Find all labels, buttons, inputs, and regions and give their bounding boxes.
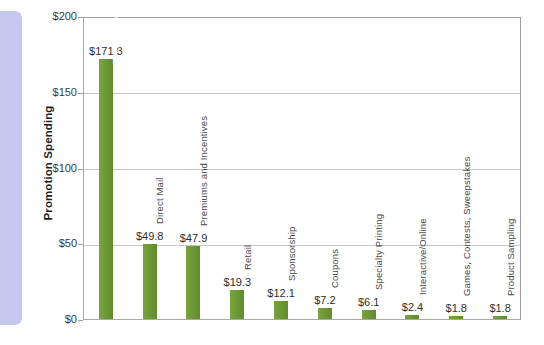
bar-category-label: Sponsorship: [286, 226, 297, 280]
y-axis-tick-mark: [78, 320, 83, 321]
bar[interactable]: [143, 244, 157, 319]
bar-category-label: Product Sampling: [505, 219, 516, 296]
bar-category-label: Direct Mail: [154, 177, 165, 224]
bar-group[interactable]: $2.4Interactive/Online: [391, 16, 435, 319]
bar-group[interactable]: $171.8Event Marketing: [84, 16, 128, 319]
bar-group[interactable]: $19.3Retail: [215, 16, 259, 319]
bar[interactable]: [362, 310, 376, 319]
bar-category-label: Event Marketing: [110, 0, 121, 65]
bar-value-label: $1.8: [470, 302, 530, 314]
bar-group[interactable]: $47.9Premiums and Incentives: [172, 16, 216, 319]
bar-category-label: Coupons: [329, 249, 340, 288]
bar-category-label: Retail: [242, 245, 253, 270]
bar[interactable]: [493, 316, 507, 319]
bar-group[interactable]: $7.2Coupons: [303, 16, 347, 319]
bar[interactable]: [230, 290, 244, 319]
bar[interactable]: [405, 315, 419, 319]
bar[interactable]: [186, 246, 200, 319]
bar-chart: Promotion Spending $0$50$100$150$200 $17…: [0, 0, 544, 345]
bar-group[interactable]: $1.8Games, Contests, Sweepstakes: [434, 16, 478, 319]
y-axis-tick-label: $50: [38, 237, 77, 249]
bar[interactable]: [99, 59, 113, 319]
y-axis-tick-label: $200: [38, 10, 77, 22]
bar-group[interactable]: $49.8Direct Mail: [128, 16, 172, 319]
bar[interactable]: [274, 301, 288, 319]
bar[interactable]: [449, 316, 463, 319]
bar-category-label: Specialty Printing: [373, 214, 384, 290]
bar-group[interactable]: $6.1Specialty Printing: [347, 16, 391, 319]
y-axis-tick-label: $0: [38, 313, 77, 325]
bar-group[interactable]: $1.8Product Sampling: [478, 16, 522, 319]
bar-category-label: Premiums and Incentives: [198, 116, 209, 226]
bar-category-label: Interactive/Online: [417, 219, 428, 296]
plot-area: $171.8Event Marketing$49.8Direct Mail$47…: [83, 17, 521, 320]
bar[interactable]: [318, 308, 332, 319]
bar-category-label: Games, Contests, Sweepstakes: [461, 157, 472, 296]
y-axis-tick-label: $150: [38, 86, 77, 98]
bar-group[interactable]: $12.1Sponsorship: [259, 16, 303, 319]
y-axis-tick-label: $100: [38, 162, 77, 174]
